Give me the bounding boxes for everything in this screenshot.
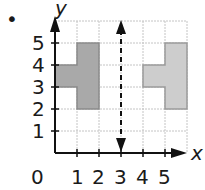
axes (55, 26, 180, 153)
x-tick-3: 3 (114, 165, 127, 189)
origin-label: 0 (31, 165, 44, 189)
y-axis-label: y (54, 0, 68, 20)
x-tick-5: 5 (158, 165, 171, 189)
y-tick-5: 5 (32, 31, 45, 55)
y-tick-3: 3 (32, 75, 45, 99)
original-shape (55, 43, 99, 109)
y-tick-2: 2 (32, 97, 45, 121)
x-axis-label: x (190, 141, 203, 165)
image-shape (143, 43, 187, 109)
x-tick-4: 4 (136, 165, 149, 189)
bullet: • (6, 7, 18, 31)
axis-ticks (51, 43, 165, 157)
reflection-line-top-arrow-icon (116, 20, 126, 34)
x-axis-arrow-icon (171, 148, 187, 158)
y-tick-4: 4 (32, 53, 45, 77)
x-tick-2: 2 (92, 165, 105, 189)
x-tick-1: 1 (71, 165, 84, 189)
y-tick-1: 1 (32, 119, 45, 143)
coordinate-grid-diagram: • y x 1 (0, 0, 205, 190)
reflection-line-bottom-arrow-icon (116, 138, 126, 152)
